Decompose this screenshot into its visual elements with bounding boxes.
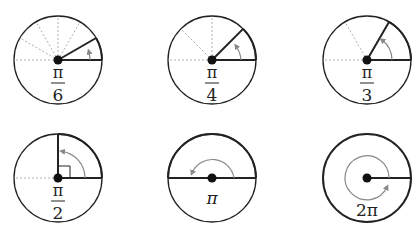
- angle-pi: π: [168, 134, 256, 222]
- angle-diagram: π 6 π 4 π 3: [0, 0, 413, 248]
- label-numerator: π: [207, 63, 218, 82]
- label-denominator: 3: [362, 85, 373, 105]
- angle-2pi: 2π: [323, 134, 411, 222]
- angle-pi-over-3: π 3: [323, 16, 411, 105]
- center-dot: [363, 174, 372, 183]
- label-numerator: π: [53, 63, 64, 82]
- label-numerator: π: [53, 181, 64, 200]
- angle-label: π: [205, 188, 218, 208]
- angle-pi-over-4: π 4: [168, 16, 256, 105]
- label-numerator: π: [362, 63, 373, 82]
- label-denominator: 6: [53, 85, 64, 105]
- angle-pi-over-6: π 6: [14, 16, 102, 105]
- label-denominator: 4: [207, 85, 218, 105]
- center-dot: [208, 174, 217, 183]
- angle-pi-over-2: π 2: [14, 134, 102, 223]
- angle-label: 2π: [356, 200, 378, 220]
- label-denominator: 2: [53, 203, 64, 223]
